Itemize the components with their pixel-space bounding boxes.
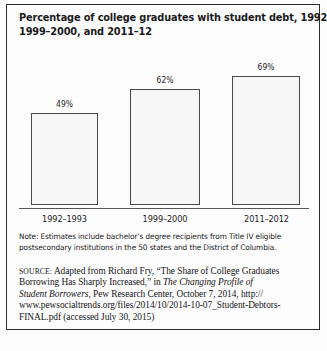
category-label-2: 1999–2000 (121, 214, 209, 224)
bar-1999-2000 (130, 89, 200, 205)
chart-title-line-1: Percentage of college graduates with stu… (19, 11, 293, 25)
chart-title-line-2: 1999–2000, and 2011–12 (19, 25, 293, 39)
figure-container: Percentage of college graduates with stu… (0, 0, 327, 351)
source-line-1: SOURCE: Adapted from Richard Fry, “The S… (19, 266, 311, 277)
chart-source: SOURCE: Adapted from Richard Fry, “The S… (19, 266, 311, 323)
source-line-3: Student Borrowers, Pew Research Center, … (19, 289, 311, 300)
source-line-2-text: Borrowing Has Sharply Increased,” in (19, 277, 163, 287)
source-line-1-rest: Adapted from Richard Fry, “The Share of … (52, 266, 279, 276)
bar-value-label-3: 69% (234, 63, 299, 72)
category-label-3: 2011–2012 (223, 214, 310, 224)
chart-title: Percentage of college graduates with stu… (19, 11, 293, 38)
bar-1992-1993 (31, 113, 98, 205)
x-axis-line (19, 208, 309, 209)
source-label: SOURCE: (19, 267, 52, 276)
category-label-1: 1992–1993 (21, 214, 108, 224)
chart-note-line-2: postsecondary institutions in the 50 sta… (19, 242, 298, 253)
source-line-2-italic: The Changing Profile of (163, 277, 253, 287)
chart-note: Note: Estimates include bachelor’s degre… (19, 231, 298, 253)
bar-value-label-2: 62% (132, 76, 199, 85)
chart-note-line-1: Note: Estimates include bachelor’s degre… (19, 231, 298, 242)
source-line-3-italic: Student Borrowers (19, 289, 88, 299)
source-line-3-rest: , Pew Research Center, October 7, 2014, … (88, 289, 263, 299)
bar-2011-2012 (232, 76, 300, 205)
source-line-5: FINAL.pdf (accessed July 30, 2015) (19, 312, 311, 323)
bar-value-label-1: 49% (33, 100, 97, 109)
source-line-2: Borrowing Has Sharply Increased,” in The… (19, 277, 311, 288)
source-line-4: www.pewsocialtrends.org/files/2014/10/20… (19, 300, 311, 311)
plot-area: 49% 1992–1993 62% 1999–2000 69% 2011–201… (19, 62, 309, 210)
